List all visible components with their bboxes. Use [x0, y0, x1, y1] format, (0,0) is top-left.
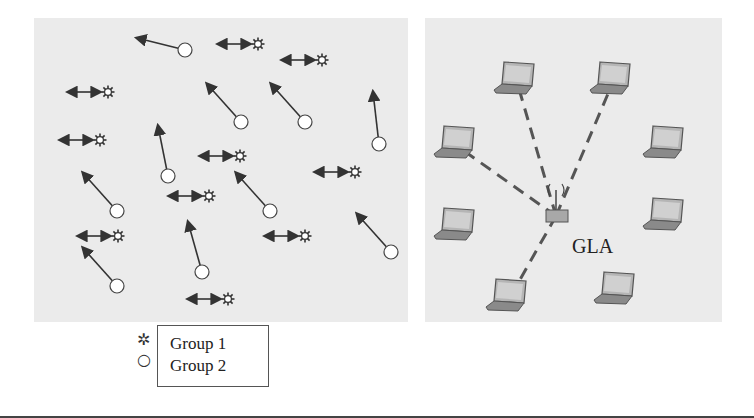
group2-arrow [271, 84, 300, 117]
wireless-link [457, 146, 556, 216]
laptop-icon [643, 126, 683, 158]
circle-icon [234, 115, 248, 129]
circle-icon [110, 204, 124, 218]
laptop-icon [434, 208, 474, 240]
legend-label-group2: Group 2 [170, 356, 226, 376]
wireless-link [556, 82, 613, 216]
group2-arrow [83, 248, 112, 281]
group2-arrow [83, 173, 112, 206]
group2-arrow [357, 214, 386, 247]
legend-label-group1: Group 1 [170, 334, 226, 354]
wireless-link [517, 82, 556, 216]
group2-arrow [373, 92, 378, 137]
laptop-icon [486, 279, 526, 311]
star-icon [112, 230, 125, 243]
group1-nodes [60, 38, 362, 306]
star-icon [222, 293, 235, 306]
star-icon [94, 134, 107, 147]
gla-links [434, 62, 683, 311]
group2-nodes [83, 38, 398, 293]
laptop-icon [594, 272, 634, 304]
star-icon [203, 190, 216, 203]
circle-icon [298, 115, 312, 129]
laptop-icon [643, 198, 683, 230]
star-icon [102, 86, 115, 99]
group2-arrow [137, 38, 178, 48]
group2-arrow [207, 84, 236, 117]
star-icon [234, 150, 247, 163]
star-icon: ✲ [137, 330, 150, 349]
group2-arrow [158, 126, 167, 169]
gla-router-icon [546, 210, 568, 222]
circle-icon [384, 245, 398, 259]
circle-icon [178, 43, 192, 57]
circle-icon [195, 265, 209, 279]
circle-icon [263, 204, 277, 218]
laptop-icon [494, 62, 534, 94]
diagram-canvas [0, 0, 754, 418]
star-icon [299, 230, 312, 243]
circle-icon [161, 169, 175, 183]
laptop-icon [434, 126, 474, 158]
circle-icon [110, 279, 124, 293]
group2-arrow [236, 173, 265, 206]
circle-icon: ○ [137, 350, 151, 369]
star-icon [316, 54, 329, 67]
legend: Group 1 Group 2 [157, 325, 269, 387]
star-icon [252, 38, 265, 51]
circle-icon [372, 137, 386, 151]
gla-label: GLA [572, 235, 613, 258]
group2-arrow [188, 222, 200, 265]
star-icon [349, 166, 362, 179]
laptop-icon [590, 62, 630, 94]
